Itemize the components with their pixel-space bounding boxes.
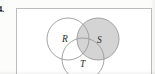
right-edge-shading bbox=[151, 0, 155, 74]
bottom-edge-shading bbox=[0, 71, 155, 74]
figure-screenshot: 4. R S T bbox=[0, 0, 155, 74]
problem-number-label: 4. bbox=[0, 4, 10, 15]
set-label-s: S bbox=[97, 36, 102, 46]
venn-diagram: R S T bbox=[16, 8, 152, 74]
set-label-t: T bbox=[80, 60, 85, 70]
set-label-r: R bbox=[62, 35, 68, 45]
